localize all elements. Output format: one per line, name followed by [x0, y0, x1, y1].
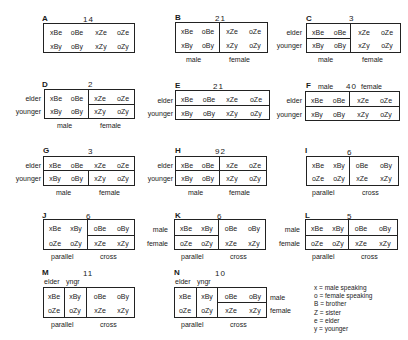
- col-label: parallel: [181, 253, 204, 260]
- cell: xBy: [176, 42, 198, 49]
- cell: oBe: [351, 162, 373, 169]
- cell: xZe: [220, 307, 242, 314]
- col-label: female: [229, 56, 250, 63]
- col-label: cross: [362, 189, 379, 196]
- cell: xZe: [221, 162, 243, 169]
- cell: xBy: [327, 225, 349, 232]
- cell: oBy: [329, 42, 351, 49]
- cell: oZy: [244, 175, 266, 182]
- cell: xBy: [176, 175, 198, 182]
- panel-letter: B: [175, 14, 181, 22]
- col-label: cross: [361, 253, 378, 260]
- cell: oBe: [66, 162, 88, 169]
- row-label: female: [262, 240, 300, 247]
- row-label: male: [270, 294, 285, 301]
- cell: xZe: [352, 97, 374, 104]
- divider: [86, 287, 87, 318]
- cell: xZy: [352, 111, 374, 118]
- row-label: younger: [130, 175, 173, 182]
- col-label: female: [362, 56, 383, 63]
- cell: xBy: [65, 225, 87, 232]
- row-label: elder: [130, 162, 173, 169]
- panel-letter: N: [174, 269, 180, 277]
- row-label: female: [270, 307, 291, 314]
- col-label: yngr: [197, 278, 211, 285]
- legend-item: Z = sister: [314, 309, 372, 317]
- col-label: male: [57, 122, 72, 129]
- row-label: male: [262, 226, 300, 233]
- col-label: male: [318, 83, 333, 90]
- divider: [217, 302, 267, 303]
- panel-count: 40: [346, 83, 357, 91]
- cell: xZy: [221, 175, 243, 182]
- cell: xZe: [350, 240, 372, 247]
- cell: xBe: [175, 225, 197, 232]
- cell: xBy: [196, 293, 218, 300]
- panel-letter: I: [305, 147, 307, 155]
- cell: oZe: [376, 29, 398, 36]
- panel-letter: E: [175, 82, 180, 90]
- cell: xZy: [244, 307, 266, 314]
- cell: oBe: [89, 225, 111, 232]
- cell: oZy: [376, 42, 398, 49]
- cell: xZy: [89, 108, 111, 115]
- cell: oBe: [328, 97, 350, 104]
- cell: xZy: [221, 110, 243, 117]
- legend-item: y = younger: [314, 325, 372, 333]
- cell: oBy: [66, 108, 88, 115]
- cell: xBe: [307, 162, 329, 169]
- cell: oBe: [66, 95, 88, 102]
- divider: [174, 235, 218, 236]
- cell: oBy: [197, 42, 219, 49]
- cell: xBe: [44, 162, 66, 169]
- cell: oBe: [197, 28, 219, 35]
- legend-item: B = brother: [314, 300, 372, 308]
- cell: xBe: [174, 293, 196, 300]
- cell: oZy: [328, 175, 350, 182]
- cell: xZe: [89, 162, 111, 169]
- cell: xBe: [45, 95, 67, 102]
- cell: xZy: [89, 175, 111, 182]
- cell: oBe: [350, 225, 372, 232]
- divider: [43, 170, 135, 171]
- cell: xBe: [45, 29, 67, 36]
- cell: xZe: [221, 96, 243, 103]
- cell: oBe: [66, 29, 88, 36]
- cell: xZy: [112, 307, 134, 314]
- cell: xZy: [375, 175, 397, 182]
- col-label: elder: [175, 278, 191, 285]
- row-label: younger: [0, 175, 41, 182]
- col-label: female: [100, 122, 121, 129]
- cell: oBy: [374, 225, 396, 232]
- panel-letter: D: [42, 81, 48, 89]
- cell: oBe: [220, 225, 242, 232]
- cell: xBy: [196, 225, 218, 232]
- cell: xBy: [307, 42, 329, 49]
- row-label: male: [130, 226, 168, 233]
- cell: xBy: [44, 175, 66, 182]
- row-label: female: [130, 240, 168, 247]
- cell: xBe: [307, 29, 329, 36]
- cell: xZe: [89, 95, 111, 102]
- cell: oBe: [329, 29, 351, 36]
- col-label: parallel: [51, 321, 74, 328]
- row-label: elder: [0, 162, 41, 169]
- row-label: younger: [262, 42, 302, 49]
- col-label: cross: [100, 253, 117, 260]
- row-label: elder: [130, 97, 173, 104]
- divider: [305, 235, 398, 236]
- cell: oZe: [306, 240, 328, 247]
- col-label: cross: [230, 253, 247, 260]
- divider: [175, 170, 267, 171]
- cell: oZe: [307, 175, 329, 182]
- panel-letter: A: [42, 15, 48, 23]
- cell: xBe: [43, 293, 65, 300]
- cell: xZe: [220, 240, 242, 247]
- divider: [88, 104, 135, 105]
- cell: xBy: [176, 110, 198, 117]
- cell: xZy: [90, 43, 112, 50]
- cell: oBy: [328, 111, 350, 118]
- col-label: parallel: [312, 189, 335, 196]
- cell: xBe: [306, 97, 328, 104]
- col-label: male: [56, 189, 71, 196]
